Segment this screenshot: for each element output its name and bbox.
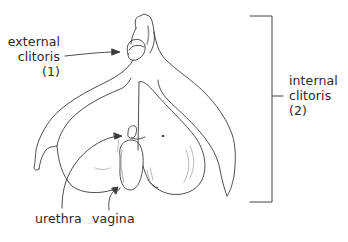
urethra-opening-shape <box>128 126 145 139</box>
external-clitoris-label-line1: external <box>0 34 60 49</box>
internal-clitoris-bracket <box>250 16 283 202</box>
urethra-label: urethra <box>35 211 82 226</box>
vagina-label: vagina <box>92 211 135 226</box>
internal-clitoris-label-number: (2) <box>289 103 338 118</box>
external-clitoris-arrow <box>65 49 120 56</box>
external-clitoris-shape <box>127 14 154 60</box>
internal-clitoris-label-line1: internal <box>289 73 338 88</box>
right-crus-shape <box>154 32 235 196</box>
vagina-opening-shape <box>120 140 158 190</box>
shading-strokes <box>95 135 194 182</box>
internal-clitoris-label: internal clitoris (2) <box>289 73 338 118</box>
external-clitoris-label-number: (1) <box>0 64 60 79</box>
urethra-arrow <box>62 133 122 208</box>
external-clitoris-label-line2: clitoris <box>0 49 60 64</box>
clitoris-anatomy-diagram: external clitoris (1) internal clitoris … <box>0 0 348 242</box>
external-clitoris-label: external clitoris (1) <box>0 34 60 79</box>
internal-clitoris-label-line2: clitoris <box>289 88 338 103</box>
